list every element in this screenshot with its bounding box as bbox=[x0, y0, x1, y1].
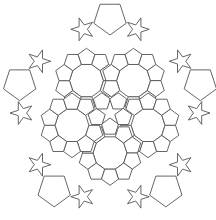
outer-star bbox=[71, 185, 93, 208]
outer-star bbox=[169, 153, 191, 176]
outer-star bbox=[169, 50, 191, 73]
large-pentagon bbox=[184, 70, 216, 101]
tiling-canvas bbox=[0, 0, 216, 220]
large-pentagon bbox=[38, 176, 70, 207]
outer-star bbox=[29, 153, 51, 176]
pentagon bbox=[102, 169, 119, 185]
outer-star bbox=[71, 18, 93, 41]
outer-star bbox=[188, 102, 210, 125]
outer-star bbox=[29, 50, 51, 73]
outer-star bbox=[10, 102, 32, 125]
large-pentagon bbox=[150, 176, 182, 207]
tiling-diagram bbox=[0, 0, 216, 220]
outer-star bbox=[127, 185, 149, 208]
large-pentagon bbox=[94, 4, 126, 35]
outer-star bbox=[127, 18, 149, 41]
large-pentagon bbox=[3, 70, 35, 101]
